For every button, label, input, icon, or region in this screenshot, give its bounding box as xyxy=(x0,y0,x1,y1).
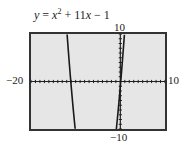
graph-screen xyxy=(0,0,181,146)
